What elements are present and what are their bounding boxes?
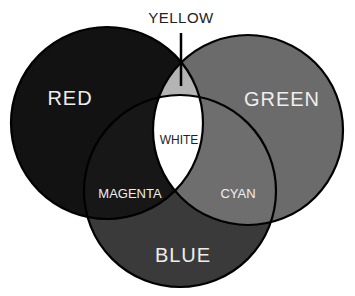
label-white: WHITE xyxy=(160,133,199,147)
label-red: RED xyxy=(47,87,92,109)
venn-diagram: YELLOW RED GREEN WHITE MAGENTA CYAN BLUE xyxy=(0,0,355,296)
label-green: GREEN xyxy=(244,88,320,110)
label-magenta: MAGENTA xyxy=(98,186,162,201)
label-yellow: YELLOW xyxy=(148,9,214,26)
label-cyan: CYAN xyxy=(220,186,255,201)
label-blue: BLUE xyxy=(155,244,211,266)
